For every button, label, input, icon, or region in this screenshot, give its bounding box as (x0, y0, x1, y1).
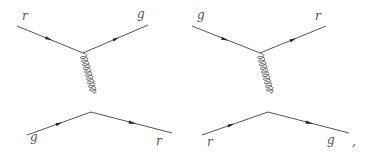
trailing-comma: , (352, 134, 356, 148)
diagram-right: g r r g , (192, 8, 356, 149)
arrow-icon (221, 37, 228, 41)
arrow-icon (290, 38, 297, 42)
arrow-icon (306, 121, 314, 124)
feynman-diagrams: r g g r g r r g , (0, 0, 369, 157)
label-in-top: g (197, 8, 205, 22)
label-in-bottom: r (207, 135, 214, 149)
fermion-line-in-bottom (202, 112, 268, 135)
gluon-propagator (257, 53, 273, 93)
arrow-icon (56, 123, 63, 127)
label-in-bottom: g (30, 130, 38, 144)
label-out-top: r (315, 9, 322, 23)
arrow-icon (45, 36, 52, 40)
diagram-left: r g g r (17, 7, 172, 148)
label-in-top: r (22, 9, 29, 23)
label-out-bottom: g (327, 133, 335, 147)
label-out-top: g (137, 7, 145, 21)
arrow-icon (113, 38, 120, 42)
arrow-icon (228, 124, 235, 128)
arrow-icon (129, 121, 137, 124)
label-out-bottom: r (156, 134, 163, 148)
gluon-propagator (80, 53, 96, 93)
